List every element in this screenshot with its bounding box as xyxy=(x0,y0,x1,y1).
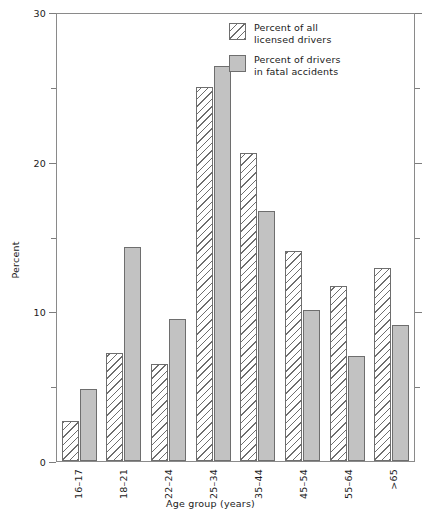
y-tick-major xyxy=(49,312,56,313)
y-tick-major xyxy=(49,462,56,463)
y-tick-label: 0 xyxy=(40,457,46,468)
bar-fatal-accidents xyxy=(303,310,320,461)
y-tick-right xyxy=(415,312,422,313)
x-tick-cell: >65 xyxy=(370,463,415,520)
y-axis-title: Percent xyxy=(10,230,21,290)
x-tick-label: 45–54 xyxy=(297,469,308,499)
legend-label-line1: Percent of drivers xyxy=(254,54,341,66)
legend-label-licensed-drivers: Percent of all licensed drivers xyxy=(254,22,332,45)
x-tick-cell: 45–54 xyxy=(280,463,325,520)
bar-fatal-accidents xyxy=(258,211,275,461)
x-axis-title: Age group (years) xyxy=(0,498,421,509)
bar-licensed-drivers xyxy=(285,251,302,461)
legend-swatch-solid-icon xyxy=(229,55,246,72)
x-tick-cell: 25–34 xyxy=(191,463,236,520)
y-tick-label: 10 xyxy=(34,307,47,318)
y-axis: 0102030 xyxy=(0,13,56,462)
bar-licensed-drivers xyxy=(106,353,123,461)
bar-licensed-drivers xyxy=(151,364,168,461)
bar-fatal-accidents xyxy=(214,66,231,461)
y-tick-label: 20 xyxy=(34,157,47,168)
legend-label-line2: licensed drivers xyxy=(254,34,332,46)
bar-fatal-accidents xyxy=(348,356,365,461)
x-tick-cell: 18–21 xyxy=(101,463,146,520)
bar-group xyxy=(57,14,102,461)
x-tick-cell: 55–64 xyxy=(325,463,370,520)
x-tick-label: 16–17 xyxy=(73,469,84,499)
x-tick-label: 18–21 xyxy=(118,469,129,499)
bar-group xyxy=(146,14,191,461)
x-tick-cell: 22–24 xyxy=(146,463,191,520)
bar-licensed-drivers xyxy=(62,421,79,461)
y-tick-right xyxy=(415,238,420,239)
bar-licensed-drivers xyxy=(240,153,257,461)
bar-group xyxy=(102,14,147,461)
x-tick-label: 25–34 xyxy=(208,469,219,499)
bar-fatal-accidents xyxy=(124,247,141,461)
legend-label-line2: in fatal accidents xyxy=(254,66,341,78)
x-tick-label: 22–24 xyxy=(163,469,174,499)
legend: Percent of all licensed drivers Percent … xyxy=(229,22,409,86)
x-tick-label: 55–64 xyxy=(342,469,353,499)
bar-fatal-accidents xyxy=(392,325,409,461)
y-tick-major xyxy=(49,163,56,164)
bar-fatal-accidents xyxy=(80,389,97,461)
y-tick-major xyxy=(49,13,56,14)
bar-licensed-drivers xyxy=(330,286,347,461)
x-axis: 16–1718–2122–2425–3435–4445–5455–64>65 xyxy=(56,463,415,520)
y-tick-right xyxy=(415,163,422,164)
y-tick-label: 30 xyxy=(34,8,47,19)
x-tick-cell: 35–44 xyxy=(236,463,281,520)
y-tick-right xyxy=(415,387,420,388)
x-tick-cell: 16–17 xyxy=(56,463,101,520)
bar-licensed-drivers xyxy=(196,87,213,461)
legend-item-fatal-accidents: Percent of drivers in fatal accidents xyxy=(229,54,409,77)
bar-fatal-accidents xyxy=(169,319,186,461)
bar-licensed-drivers xyxy=(374,268,391,461)
legend-label-line1: Percent of all xyxy=(254,22,332,34)
legend-item-licensed-drivers: Percent of all licensed drivers xyxy=(229,22,409,45)
x-tick-label: >65 xyxy=(387,469,398,490)
y-tick-right xyxy=(415,13,422,14)
legend-swatch-hatch-icon xyxy=(229,23,246,40)
y-axis-right-ticks xyxy=(415,13,425,462)
x-tick-label: 35–44 xyxy=(252,469,263,499)
legend-label-fatal-accidents: Percent of drivers in fatal accidents xyxy=(254,54,341,77)
y-tick-right xyxy=(415,88,420,89)
